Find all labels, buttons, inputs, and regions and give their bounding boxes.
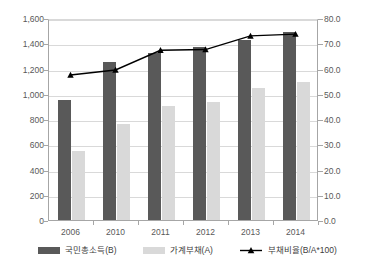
- y-axis-right-tick-mark: [318, 70, 323, 71]
- y-axis-right-tick-label: 10.0: [324, 192, 368, 201]
- legend-item[interactable]: 국민총소득(B): [38, 246, 116, 255]
- y-axis-left-tick-label: 800: [4, 116, 44, 125]
- bar-light-swatch: [143, 247, 165, 254]
- line-triangle-marker-icon: [239, 246, 263, 255]
- x-axis-tick-label: 2012: [186, 228, 226, 237]
- x-axis-tick-label: 2010: [96, 228, 136, 237]
- line-path: [71, 34, 296, 75]
- x-axis-tick-mark: [138, 221, 139, 225]
- legend-label: 부채비율(B/A*100): [268, 246, 337, 255]
- y-axis-left-tick-label: 600: [4, 141, 44, 150]
- x-axis-tick-mark: [183, 221, 184, 225]
- y-axis-right-tick-mark: [318, 95, 323, 96]
- legend: 국민총소득(B)가계부채(A)부채비율(B/A*100): [0, 246, 375, 255]
- x-axis-tick-label: 2006: [51, 228, 91, 237]
- y-axis-left-tick-label: 1,200: [4, 65, 44, 74]
- y-axis-right-tick-mark: [318, 196, 323, 197]
- bar-dark-swatch: [38, 247, 60, 254]
- y-axis-left-tick-label: 400: [4, 166, 44, 175]
- x-axis-tick-mark: [93, 221, 94, 225]
- y-axis-right-tick-label: 60.0: [324, 65, 368, 74]
- x-axis-tick-label: 2011: [141, 228, 181, 237]
- y-axis-right-tick-mark: [318, 120, 323, 121]
- line-series-layer: [48, 19, 318, 221]
- y-axis-left-tick-label: 200: [4, 192, 44, 201]
- y-axis-right-tick-label: 70.0: [324, 40, 368, 49]
- x-axis-tick-label: 2014: [276, 228, 316, 237]
- x-axis-tick-mark: [228, 221, 229, 225]
- y-axis-right-tick-label: 40.0: [324, 116, 368, 125]
- legend-item[interactable]: 부채비율(B/A*100): [239, 246, 337, 255]
- y-axis-left-tick-mark: [43, 221, 48, 222]
- y-axis-right-tick-label: 50.0: [324, 91, 368, 100]
- y-axis-right-tick-label: 0.0: [324, 217, 368, 226]
- y-axis-left-tick-label: 1,600: [4, 15, 44, 24]
- x-axis-tick-mark: [273, 221, 274, 225]
- y-axis-right-tick-mark: [318, 44, 323, 45]
- x-axis-tick-label: 2013: [231, 228, 271, 237]
- chart-container: 02004006008001,0001,2001,4001,600 0.010.…: [0, 0, 375, 273]
- legend-item[interactable]: 가계부채(A): [143, 246, 213, 255]
- y-axis-right-tick-label: 80.0: [324, 15, 368, 24]
- legend-label: 가계부채(A): [170, 246, 213, 255]
- y-axis-right-tick-label: 30.0: [324, 141, 368, 150]
- legend-label: 국민총소득(B): [65, 246, 116, 255]
- y-axis-right-tick-mark: [318, 19, 323, 20]
- y-axis-left-tick-label: 0: [4, 217, 44, 226]
- y-axis-right-tick-label: 20.0: [324, 166, 368, 175]
- y-axis-left-tick-label: 1,000: [4, 91, 44, 100]
- x-axis-tick-mark: [318, 221, 319, 225]
- y-axis-right-tick-mark: [318, 171, 323, 172]
- y-axis-left-tick-label: 1,400: [4, 40, 44, 49]
- y-axis-right-tick-mark: [318, 145, 323, 146]
